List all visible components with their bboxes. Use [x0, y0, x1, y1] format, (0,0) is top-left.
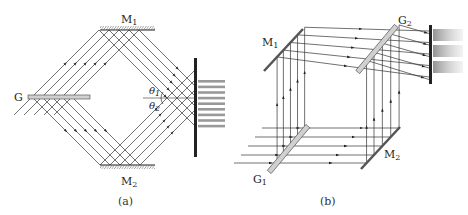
mirror-m1-a — [100, 26, 155, 30]
ray-m1-to-screen — [99, 30, 194, 125]
label-g2-b: G2 — [398, 14, 412, 28]
label-m1-a: M1 — [121, 13, 137, 27]
ray-m2-to-screen — [120, 91, 194, 165]
interferometer-figure: M1 M2 G θ1 θ2 (a) M1 G2 G1 M2 (b) — [0, 0, 468, 215]
grating-g-a — [28, 95, 90, 99]
incident-ray — [24, 97, 42, 115]
label-theta1: θ1 — [149, 85, 160, 98]
panel-a: M1 M2 G θ1 θ2 (a) — [14, 13, 225, 208]
fringe — [198, 125, 225, 128]
label-g1-b: G1 — [253, 173, 267, 187]
ray-m2-to-screen — [140, 111, 194, 165]
label-theta2: θ2 — [149, 100, 160, 113]
interference-fringes-a — [198, 80, 225, 127]
ray-g2-to-screen — [391, 34, 429, 45]
fringe — [198, 108, 225, 111]
fringe-band — [433, 45, 463, 57]
fringe — [198, 102, 225, 105]
ray-g2-to-screen — [382, 43, 429, 56]
fringe — [198, 86, 225, 89]
incident-ray — [44, 97, 62, 115]
ray-m2-to-screen — [100, 71, 194, 165]
fringe — [198, 91, 225, 94]
fringe-band — [433, 29, 463, 41]
caption-b: (b) — [320, 195, 336, 208]
interference-fringes-b — [433, 29, 463, 73]
label-m2-b: M2 — [384, 148, 400, 162]
fringe-band — [433, 61, 463, 73]
label-m1-b: M1 — [262, 36, 278, 50]
label-m2-a: M2 — [121, 175, 137, 189]
ray-m1-to-screen — [290, 43, 429, 54]
ray-m1-to-screen — [139, 30, 194, 85]
ray-m2-to-screen — [130, 101, 194, 165]
mirror-m2-a — [100, 165, 155, 169]
fringe — [198, 119, 225, 122]
grating-g1-b — [267, 124, 309, 173]
label-g-a: G — [14, 91, 23, 104]
fringe — [198, 114, 225, 117]
panel-b: M1 G2 G1 M2 (b) — [234, 14, 463, 208]
fringe — [198, 97, 225, 100]
ray-m1-to-screen — [277, 57, 429, 77]
screen-a — [194, 58, 197, 157]
fringe — [198, 80, 225, 83]
screen-b — [429, 25, 432, 84]
caption-a: (a) — [118, 195, 133, 208]
incident-ray — [34, 97, 52, 115]
grating-g2-b — [356, 24, 398, 73]
ray-m1-to-screen — [129, 30, 194, 95]
ray-m1-to-screen — [298, 35, 429, 43]
incident-ray — [54, 97, 72, 115]
